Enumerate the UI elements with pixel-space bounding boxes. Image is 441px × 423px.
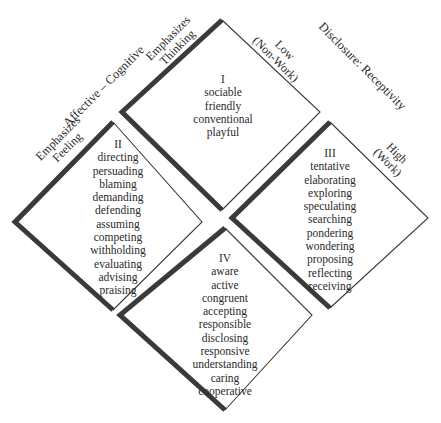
quadrant-2-word: withholding — [90, 244, 146, 257]
quadrant-2-numeral: II — [90, 138, 146, 151]
quadrant-3-word: speculating — [304, 200, 356, 213]
quadrant-3-word: exploring — [304, 187, 356, 200]
quadrant-1-word: conventional — [193, 113, 252, 126]
quadrant-3-word: tentative — [304, 160, 356, 173]
quadrant-3-word: wondering — [304, 240, 356, 253]
quadrant-2-word: praising — [90, 284, 146, 297]
quadrant-3-word: receiving — [304, 280, 356, 293]
quadrant-4-word: understanding — [192, 358, 257, 371]
quadrant-3-word: searching — [304, 213, 356, 226]
quadrant-4-content: IV aware active congruent accepting resp… — [192, 252, 257, 398]
quadrant-4-word: responsive — [192, 345, 257, 358]
quadrant-4-numeral: IV — [192, 252, 257, 265]
quadrant-1-word: playful — [193, 126, 252, 139]
quadrant-2-word: defending — [90, 204, 146, 217]
quadrant-4-word: disclosing — [192, 332, 257, 345]
quadrant-3-content: III tentative elaborating exploring spec… — [304, 147, 356, 293]
quadrant-2-word: persuading — [90, 165, 146, 178]
quadrant-3-word: pondering — [304, 227, 356, 240]
quadrant-4-word: active — [192, 279, 257, 292]
quadrant-3-word: elaborating — [304, 174, 356, 187]
quadrant-4-word: accepting — [192, 305, 257, 318]
quadrant-1-content: I sociable friendly conventional playful — [193, 73, 252, 139]
quadrant-2-word: competing — [90, 231, 146, 244]
quadrant-3-word: reflecting — [304, 267, 356, 280]
quadrant-4-word: responsible — [192, 318, 257, 331]
quadrant-1-numeral: I — [193, 73, 252, 86]
quadrant-1-word: friendly — [193, 100, 252, 113]
quadrant-4-word: caring — [192, 372, 257, 385]
quadrant-2-word: evaluating — [90, 258, 146, 271]
quadrant-1-word: sociable — [193, 86, 252, 99]
quadrant-3-word: proposing — [304, 253, 356, 266]
quadrant-3-numeral: III — [304, 147, 356, 160]
quadrant-2-word: blaming — [90, 178, 146, 191]
quadrant-2-word: demanding — [90, 191, 146, 204]
quadrant-2-content: II directing persuading blaming demandin… — [90, 138, 146, 298]
quadrant-2-word: assuming — [90, 218, 146, 231]
quadrant-4-word: cooperative — [192, 385, 257, 398]
quadrant-2-word: advising — [90, 271, 146, 284]
quadrant-4-word: aware — [192, 265, 257, 278]
quadrant-4-word: congruent — [192, 292, 257, 305]
quadrant-2-word: directing — [90, 151, 146, 164]
